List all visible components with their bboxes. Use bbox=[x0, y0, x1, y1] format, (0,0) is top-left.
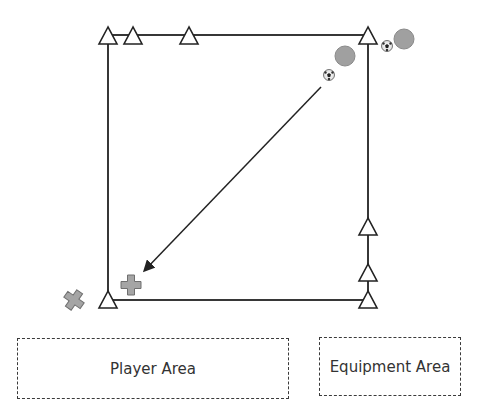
drill-diagram bbox=[0, 0, 478, 330]
cone-icon bbox=[359, 264, 377, 281]
player-cross-icon bbox=[121, 275, 141, 295]
cone-icon bbox=[359, 218, 377, 235]
cones bbox=[99, 27, 377, 308]
soccer-ball-icon bbox=[382, 41, 393, 52]
player-circle-icon bbox=[394, 29, 414, 49]
player-circle-icon bbox=[335, 46, 355, 66]
player-area-label: Player Area bbox=[110, 360, 196, 378]
equipment-area-zone: Equipment Area bbox=[319, 337, 461, 396]
player-cross-icon bbox=[60, 286, 88, 314]
soccer-ball-icon bbox=[324, 70, 335, 81]
equipment-area-label: Equipment Area bbox=[330, 358, 451, 376]
player-area-zone: Player Area bbox=[17, 338, 289, 399]
pass-arrow bbox=[145, 87, 321, 270]
